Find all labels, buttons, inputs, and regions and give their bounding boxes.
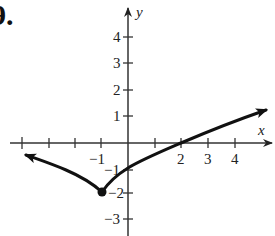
x-tick-label: −1: [89, 151, 105, 167]
x-tick-label: 2: [177, 151, 185, 167]
y-tick-label: −3: [104, 211, 120, 227]
y-axis: y 4 3 2 1 −1 −2 −3: [104, 4, 143, 236]
y-tick-label: −2: [108, 185, 124, 201]
graph: x −1 2 3 4 y 4 3 2 1 −1 −2 −3: [0, 0, 275, 236]
vertex-point: [98, 188, 107, 197]
y-tick-label: 3: [113, 55, 121, 71]
x-axis-label: x: [257, 122, 265, 138]
y-tick-label: 2: [113, 82, 121, 98]
y-tick-label: 4: [113, 29, 121, 45]
x-tick-label: 4: [231, 151, 239, 167]
y-axis-label: y: [134, 4, 143, 20]
x-tick-label: 3: [204, 151, 212, 167]
y-tick-label: 1: [113, 108, 121, 124]
